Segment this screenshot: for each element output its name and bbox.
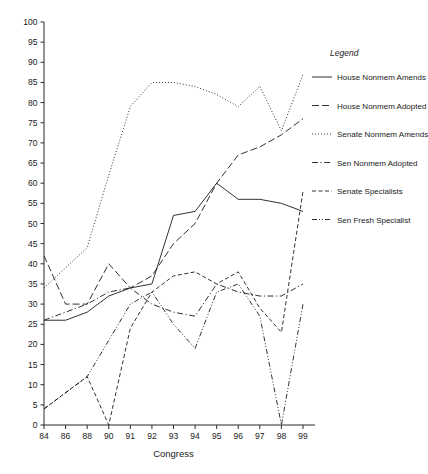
x-tick-label: 95	[212, 431, 222, 441]
y-tick-label: 15	[28, 360, 38, 370]
y-tick-label: 30	[28, 299, 38, 309]
y-axis: 0510152025303540455055606570758085909510…	[23, 17, 44, 430]
y-tick-label: 100	[23, 17, 37, 27]
y-tick-label: 0	[33, 420, 38, 430]
y-tick-label: 5	[33, 400, 38, 410]
y-tick-label: 55	[28, 198, 38, 208]
x-tick-label: 90	[104, 431, 114, 441]
series-line-3	[44, 284, 303, 320]
legend-label-4: Senate Specialists	[337, 187, 403, 196]
x-tick-label: 88	[82, 431, 92, 441]
y-tick-label: 80	[28, 98, 38, 108]
x-tick-label: 92	[147, 431, 157, 441]
y-tick-label: 25	[28, 319, 38, 329]
chart-legend: Legend House Nonmem AmendsHouse Nonmem A…	[312, 48, 428, 225]
x-tick-label: 94	[190, 431, 200, 441]
x-tick-label: 98	[277, 431, 287, 441]
y-tick-label: 95	[28, 37, 38, 47]
y-tick-label: 10	[28, 380, 38, 390]
y-tick-label: 90	[28, 57, 38, 67]
y-tick-label: 50	[28, 219, 38, 229]
y-tick-label: 70	[28, 138, 38, 148]
y-tick-label: 85	[28, 77, 38, 87]
series-line-0	[44, 183, 303, 320]
y-tick-label: 60	[28, 178, 38, 188]
series-line-4	[44, 191, 303, 425]
legend-title: Legend	[330, 48, 359, 58]
y-tick-label: 45	[28, 239, 38, 249]
x-tick-label: 91	[126, 431, 136, 441]
y-tick-label: 40	[28, 259, 38, 269]
y-tick-label: 75	[28, 118, 38, 128]
y-tick-label: 65	[28, 158, 38, 168]
x-tick-label: 84	[39, 431, 49, 441]
line-chart-figure: 0510152025303540455055606570758085909510…	[0, 0, 428, 474]
y-tick-label: 20	[28, 339, 38, 349]
series-line-5	[44, 284, 303, 425]
x-axis-title: Congress	[153, 448, 194, 459]
legend-label-5: Sen Fresh Specialist	[337, 216, 411, 225]
legend-label-2: Senate Nonmem Amends	[337, 130, 428, 139]
series-layer	[44, 74, 303, 425]
x-tick-label: 97	[255, 431, 265, 441]
series-line-2	[44, 74, 303, 288]
x-tick-label: 86	[61, 431, 71, 441]
x-tick-label: 96	[234, 431, 244, 441]
x-axis: 84868890919293949596979899	[39, 425, 308, 441]
legend-label-1: House Nonmem Adopted	[337, 102, 426, 111]
y-tick-label: 35	[28, 279, 38, 289]
x-tick-label: 99	[298, 431, 308, 441]
legend-label-0: House Nonmem Amends	[337, 73, 426, 82]
x-tick-label: 93	[169, 431, 179, 441]
chart-canvas: 0510152025303540455055606570758085909510…	[0, 0, 428, 474]
legend-label-3: Sen Nonmem Adopted	[337, 159, 418, 168]
